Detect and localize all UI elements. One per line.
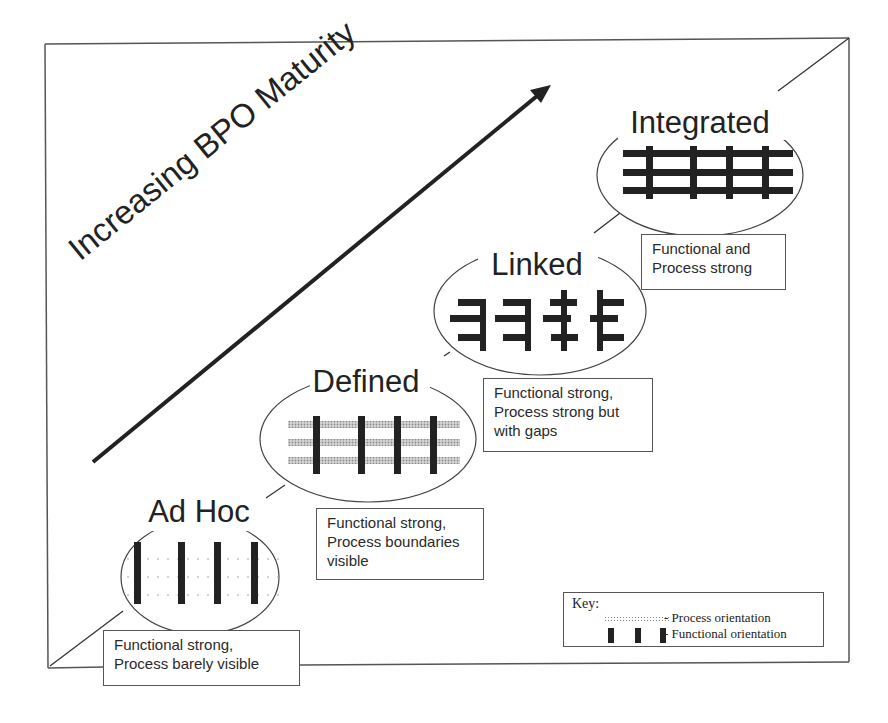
legend-key: Key: - Process orientation - Functional … (563, 592, 824, 647)
full-grid (623, 146, 793, 199)
stage-defined: Defined (260, 364, 476, 502)
functional-orientation-swatch-icon (608, 628, 614, 643)
description-ad-hoc: Functional strong, Process barely visibl… (103, 630, 300, 686)
description-defined: Functional strong, Process boundaries vi… (316, 508, 484, 580)
description-line: Process strong (652, 258, 775, 277)
description-line: Process strong but (494, 402, 642, 421)
stage-title-defined: Defined (313, 364, 420, 399)
description-line: with gaps (494, 421, 642, 440)
stage-integrated: Integrated (597, 104, 803, 236)
legend-title: Key: (572, 596, 599, 612)
process-orientation-swatch-icon (604, 616, 671, 622)
description-line: Process boundaries (327, 532, 473, 551)
stage-linked: Linked (434, 242, 646, 375)
functional-orientation-swatch-icon (635, 628, 641, 643)
stage-ad-hoc: Ad Hoc (121, 494, 279, 634)
description-line: Functional strong, (327, 513, 473, 532)
description-line: Functional and (652, 239, 775, 258)
description-line: Functional strong, (114, 635, 289, 654)
description-line: Functional strong, (494, 383, 642, 402)
stage-title-linked: Linked (491, 247, 582, 282)
stage-title-ad-hoc: Ad Hoc (148, 494, 250, 529)
description-line: visible (327, 551, 473, 570)
description-line: Process barely visible (114, 654, 289, 673)
description-integrated: Functional and Process strong (641, 234, 786, 290)
legend-label-process: - Process orientation (664, 610, 771, 626)
description-linked: Functional strong, Process strong but wi… (483, 378, 653, 452)
legend-label-functional: - Functional orientation (664, 626, 787, 642)
stage-title-integrated: Integrated (630, 105, 770, 140)
